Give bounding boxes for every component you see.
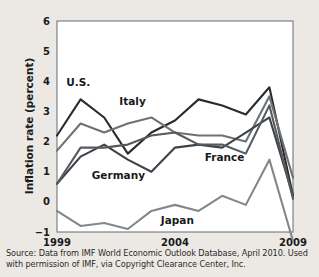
- y-tick-label: 0: [43, 196, 50, 207]
- plot-frame: [57, 21, 293, 232]
- inflation-chart: −10123456 199920042009 Inflation rate (p…: [0, 0, 319, 277]
- series-label-japan: Japan: [160, 214, 194, 226]
- y-tick-label: −1: [35, 227, 50, 238]
- series-label-germany: Germany: [92, 169, 145, 181]
- x-tick-label: 1999: [43, 237, 71, 248]
- source-line-1: Source: Data from IMF World Economic Out…: [6, 248, 313, 259]
- y-axis-ticks: −10123456: [35, 16, 50, 238]
- source-note: Source: Data from IMF World Economic Out…: [6, 248, 313, 270]
- y-axis-title: Inflation rate (percent): [23, 58, 35, 195]
- x-tick-label: 2004: [161, 237, 189, 248]
- y-tick-label: 6: [43, 16, 50, 27]
- y-tick-label: 1: [43, 166, 50, 177]
- source-line-2: with permission of IMF, via Copyright Cl…: [6, 259, 313, 270]
- series-label-us: U.S.: [66, 76, 90, 88]
- y-tick-label: 2: [43, 136, 50, 147]
- series-label-italy: Italy: [119, 95, 146, 107]
- y-tick-label: 3: [43, 106, 50, 117]
- y-tick-label: 5: [43, 46, 50, 57]
- chart-figure: −10123456 199920042009 Inflation rate (p…: [0, 0, 319, 277]
- series-label-france: France: [205, 151, 245, 163]
- y-tick-label: 4: [43, 76, 50, 87]
- x-axis-ticks: 199920042009: [43, 237, 307, 248]
